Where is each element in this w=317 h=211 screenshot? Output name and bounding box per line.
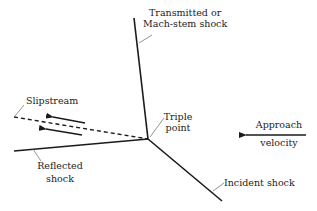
triple-label-line2: point <box>162 122 194 133</box>
reflected-label-line2: shock <box>36 173 84 184</box>
incident-shock-label: Incident shock <box>224 177 295 188</box>
approach-velocity-label: Approach velocity <box>254 119 304 148</box>
incident-leader <box>213 183 224 191</box>
mach-reflection-diagram: Transmitted or Mach-stem shock Slipstrea… <box>0 0 317 211</box>
triple-point-label: Triple point <box>162 111 194 133</box>
transmitted-shock-line <box>134 18 148 139</box>
transmitted-leader <box>139 35 152 43</box>
incident-shock-line <box>148 139 222 201</box>
reflected-shock-label: Reflected shock <box>36 160 84 184</box>
slipstream-line <box>14 117 148 139</box>
approach-label-line2: velocity <box>254 137 304 148</box>
flow-arrow-lower <box>46 129 82 135</box>
transmitted-label-line1: Transmitted or <box>143 7 227 18</box>
flow-arrow-upper <box>53 117 85 123</box>
reflected-shock-line <box>14 139 148 151</box>
slipstream-leader <box>15 105 24 116</box>
slipstream-label: Slipstream <box>26 95 78 106</box>
approach-label-line1: Approach <box>254 119 304 130</box>
transmitted-shock-label: Transmitted or Mach-stem shock <box>143 7 227 29</box>
transmitted-label-line2: Mach-stem shock <box>143 18 227 29</box>
triple-label-line1: Triple <box>162 111 194 122</box>
reflected-label-line1: Reflected <box>36 160 84 171</box>
